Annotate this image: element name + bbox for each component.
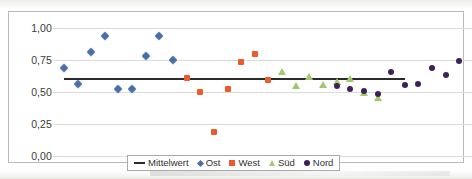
data-point-süd: [278, 68, 286, 75]
legend-label: Ost: [206, 158, 221, 168]
data-point-nord: [402, 82, 408, 88]
data-point-ost: [73, 79, 81, 87]
legend-label: Mittelwert: [148, 158, 189, 168]
legend-item-west[interactable]: West: [229, 158, 259, 168]
y-axis-tick-label: 0,00: [18, 151, 52, 162]
data-point-west: [265, 77, 271, 83]
data-point-nord: [375, 91, 381, 97]
gridline: [53, 124, 472, 125]
chart-screenshot: 1,00 0,75 0,50 0,25 0,00 MittelwertOstWe…: [0, 0, 472, 179]
data-point-ost: [155, 32, 163, 40]
diamond-marker-icon: [197, 159, 204, 166]
data-point-west: [197, 89, 203, 95]
y-axis-tick-label: 0,25: [18, 119, 52, 130]
data-point-west: [238, 59, 244, 65]
data-point-nord: [443, 72, 449, 78]
y-axis-tick-label: 1,00: [18, 23, 52, 34]
gridline: [53, 92, 472, 93]
data-point-süd: [305, 73, 313, 80]
data-point-west: [225, 86, 231, 92]
scan-artifact-smudge: [150, 171, 450, 176]
y-axis-labels: 1,00 0,75 0,50 0,25 0,00: [18, 28, 52, 156]
data-point-west: [252, 51, 258, 57]
data-point-west: [184, 75, 190, 81]
data-point-west: [211, 129, 217, 135]
legend-item-mittelwert[interactable]: Mittelwert: [134, 158, 189, 168]
y-axis-tick-label: 0,75: [18, 55, 52, 66]
data-point-ost: [60, 64, 68, 72]
plot-area: [53, 28, 472, 156]
data-point-nord: [429, 65, 435, 71]
data-point-süd: [292, 82, 300, 89]
data-point-nord: [347, 86, 353, 92]
gridline: [53, 60, 472, 61]
legend-item-ost[interactable]: Ost: [198, 158, 221, 168]
data-point-nord: [456, 58, 462, 64]
data-point-nord: [388, 69, 394, 75]
legend-label: Süd: [278, 158, 295, 168]
legend-label: Nord: [313, 158, 334, 168]
y-axis-tick-label: 0,50: [18, 87, 52, 98]
legend-item-süd[interactable]: Süd: [269, 158, 295, 168]
data-point-ost: [101, 32, 109, 40]
square-marker-icon: [229, 160, 235, 166]
circle-marker-icon: [304, 160, 310, 166]
scan-artifact-top: [0, 0, 472, 9]
data-point-süd: [319, 81, 327, 88]
data-point-ost: [87, 48, 95, 56]
legend-label: West: [238, 158, 259, 168]
data-point-ost: [169, 56, 177, 64]
chart-plot-frame: 1,00 0,75 0,50 0,25 0,00 MittelwertOstWe…: [8, 11, 464, 163]
data-point-süd: [346, 75, 354, 82]
data-point-nord: [415, 81, 421, 87]
gridline: [53, 28, 472, 29]
legend-item-nord[interactable]: Nord: [304, 158, 334, 168]
triangle-marker-icon: [269, 160, 275, 166]
line-marker-icon: [134, 162, 145, 164]
data-point-nord: [334, 83, 340, 89]
chart-legend: MittelwertOstWestSüdNord: [127, 155, 340, 171]
